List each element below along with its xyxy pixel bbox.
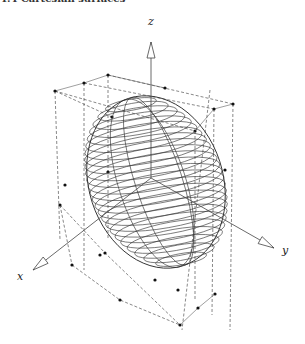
ellipsoid-diagram: x y z bbox=[0, 0, 305, 344]
bounding-box bbox=[53, 73, 234, 330]
z-axis-label: z bbox=[147, 15, 154, 28]
x-axis-label: x bbox=[17, 270, 24, 283]
y-axis-label: y bbox=[281, 244, 289, 257]
